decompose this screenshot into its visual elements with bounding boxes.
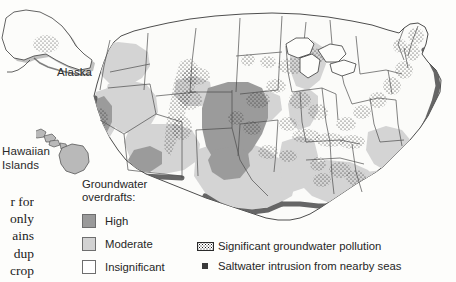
legend-map-symbols: Significant groundwater pollution Saltwa… bbox=[192, 236, 401, 276]
body-text-line: only bbox=[0, 210, 34, 227]
hawaii-label-line2: Islands bbox=[2, 159, 50, 173]
hawaii-label-line1: Hawaiian bbox=[2, 145, 50, 159]
legend-label-moderate: Moderate bbox=[105, 238, 153, 250]
legend-item-insignificant[interactable]: Insignificant bbox=[82, 255, 165, 278]
legend-title-line1: Groundwater bbox=[82, 178, 165, 191]
hawaii-big-island bbox=[59, 144, 89, 174]
body-text-line: crop bbox=[0, 262, 34, 279]
pollution-stipple bbox=[33, 35, 59, 53]
legend-label-high: High bbox=[105, 215, 128, 227]
hawaii-island bbox=[49, 140, 60, 147]
legend-title-line2: overdrafts: bbox=[82, 191, 165, 204]
legend-title: Groundwater overdrafts: bbox=[82, 178, 165, 203]
body-text-line: ains bbox=[0, 227, 34, 244]
legend-groundwater-overdrafts: Groundwater overdrafts: High Moderate In… bbox=[82, 178, 165, 278]
filled-square-icon bbox=[192, 263, 218, 269]
body-text-fragment: r for only ains dup crop bbox=[0, 193, 34, 279]
alaska-inset-label: Alaska bbox=[57, 66, 92, 78]
legend-item-high[interactable]: High bbox=[82, 209, 165, 232]
thematic-map-figure: r for only ains dup crop bbox=[0, 0, 456, 282]
legend-label-saltwater: Saltwater intrusion from nearby seas bbox=[218, 260, 401, 272]
legend-label-insignificant: Insignificant bbox=[105, 261, 165, 273]
body-text-line: dup bbox=[0, 245, 34, 262]
legend-label-pollution: Significant groundwater pollution bbox=[218, 240, 381, 252]
legend-swatch-moderate bbox=[82, 237, 96, 251]
body-text-line: r for bbox=[0, 193, 34, 210]
hawaii-inset-label: Hawaiian Islands bbox=[2, 145, 50, 172]
legend-item-saltwater[interactable]: Saltwater intrusion from nearby seas bbox=[192, 256, 401, 276]
legend-item-moderate[interactable]: Moderate bbox=[82, 232, 165, 255]
legend-swatch-high bbox=[82, 214, 96, 228]
stipple-pattern-icon bbox=[192, 242, 218, 251]
legend-item-pollution[interactable]: Significant groundwater pollution bbox=[192, 236, 401, 256]
legend-swatch-insignificant bbox=[82, 260, 96, 274]
hawaii-island bbox=[16, 125, 28, 135]
